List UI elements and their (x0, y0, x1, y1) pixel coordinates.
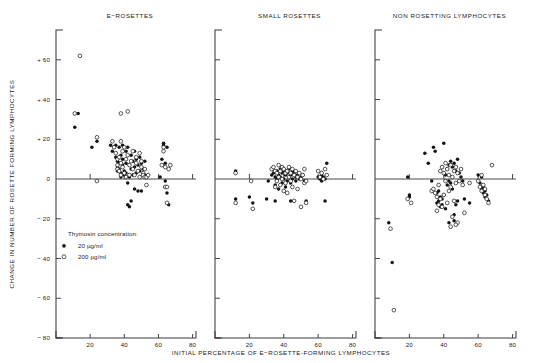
data-point (444, 207, 448, 211)
data-point (95, 135, 99, 139)
data-point (294, 179, 298, 183)
data-point (487, 201, 491, 205)
data-point (423, 151, 427, 155)
data-point (454, 165, 458, 169)
data-point (90, 145, 94, 149)
data-points-panel-1 (73, 54, 172, 209)
data-point (140, 189, 144, 193)
data-point (456, 157, 460, 161)
data-point (289, 199, 293, 203)
data-point (251, 207, 255, 211)
data-point (277, 187, 281, 191)
data-point (437, 203, 441, 207)
data-point (430, 179, 434, 183)
data-point (444, 179, 448, 183)
data-point (437, 183, 441, 187)
data-point (297, 171, 301, 175)
data-point (485, 197, 489, 201)
data-point (449, 185, 453, 189)
x-axis-spine-2 (215, 331, 356, 338)
data-point (432, 187, 436, 191)
y-axis-spine-1 (56, 30, 63, 338)
data-point (304, 201, 308, 205)
data-point (285, 169, 289, 173)
data-point (143, 167, 147, 171)
data-point (318, 175, 322, 179)
data-point (427, 161, 431, 165)
data-point (303, 167, 307, 171)
data-point (234, 171, 238, 175)
series-2-2 (234, 163, 329, 210)
data-point (277, 175, 281, 179)
data-point (126, 153, 130, 157)
data-point (164, 179, 168, 183)
data-point (451, 175, 455, 179)
data-point (272, 165, 276, 169)
data-point (468, 181, 472, 185)
data-point (442, 171, 446, 175)
data-point (119, 139, 123, 143)
data-point (483, 187, 487, 191)
x-tick-label-2-3: 80 (349, 341, 357, 348)
data-point (452, 161, 456, 165)
x-tick-label-3-2: 60 (475, 341, 483, 348)
data-point (280, 177, 284, 181)
data-point (116, 163, 120, 167)
data-point (275, 179, 279, 183)
legend-item-label-1: 20 µg/ml (78, 242, 103, 249)
data-point (406, 175, 410, 179)
data-point (265, 197, 269, 201)
data-point (432, 145, 436, 149)
data-point (447, 221, 451, 225)
data-point (468, 201, 472, 205)
data-point (449, 225, 453, 229)
data-point (454, 223, 458, 227)
x-tick-label-2-1: 40 (280, 341, 288, 348)
data-point (291, 167, 295, 171)
data-point (112, 145, 116, 149)
data-point (392, 308, 396, 312)
data-point (134, 161, 138, 165)
y-tick-label-1: + 40 (37, 96, 50, 103)
data-point (73, 126, 77, 129)
data-point (445, 183, 449, 187)
panel-3: NON ROSETTING LYMPHOCYTES20406080 (375, 12, 517, 348)
data-point (301, 173, 305, 177)
data-point (128, 163, 132, 167)
data-point (451, 215, 455, 219)
data-point (320, 171, 324, 175)
data-point (136, 169, 140, 173)
data-point (287, 175, 291, 179)
data-point (138, 151, 142, 155)
data-point (461, 179, 465, 183)
data-point (128, 173, 132, 177)
data-point (111, 149, 115, 153)
x-tick-label-2-0: 20 (246, 341, 254, 348)
data-point (447, 189, 451, 193)
data-point (304, 179, 308, 183)
data-points-panel-3 (387, 142, 494, 313)
panel-title-2: SMALL ROSETTES (258, 12, 321, 19)
data-point (73, 112, 77, 116)
data-point (122, 171, 126, 175)
data-point (284, 181, 288, 185)
data-point (249, 179, 253, 183)
legend-item-label-2: 200 µg/ml (78, 253, 106, 260)
data-point (282, 189, 286, 193)
series-1-1 (73, 112, 170, 209)
data-point (438, 169, 442, 173)
data-point (95, 140, 99, 144)
data-point (292, 173, 296, 177)
data-point (299, 205, 303, 209)
data-point (138, 175, 142, 179)
data-point (117, 155, 121, 159)
data-point (461, 183, 465, 187)
data-point (457, 179, 461, 183)
data-point (296, 187, 300, 191)
y-axis-spine-3 (375, 30, 382, 338)
data-point (136, 189, 140, 193)
legend-title: Thymosin concentration: (68, 230, 138, 237)
data-point (438, 197, 442, 201)
data-point (389, 227, 393, 231)
data-point (248, 195, 252, 199)
